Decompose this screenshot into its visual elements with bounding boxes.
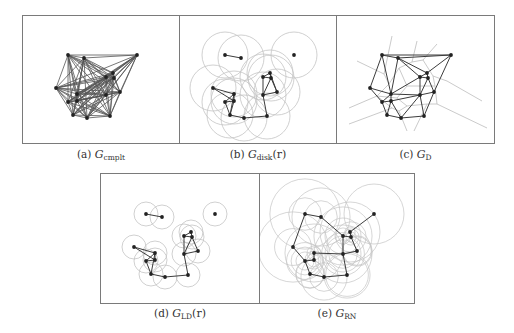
graph-node bbox=[196, 249, 200, 253]
graph-node bbox=[303, 212, 307, 216]
graph-node bbox=[449, 53, 453, 57]
graph-edge bbox=[420, 95, 424, 116]
voronoi-edge bbox=[437, 104, 487, 128]
graph-edge bbox=[434, 55, 451, 92]
graph-node bbox=[190, 235, 194, 239]
voronoi-edge bbox=[447, 81, 482, 101]
graph-node bbox=[213, 212, 217, 216]
caption-d: (d) GLD(r) bbox=[100, 307, 260, 321]
graph-edge bbox=[350, 214, 374, 232]
graph-node bbox=[118, 90, 122, 94]
panel-disk-graph bbox=[179, 15, 337, 144]
graph-edge bbox=[420, 92, 434, 95]
graph-edge bbox=[391, 58, 398, 94]
graph-node bbox=[149, 272, 153, 276]
caption-symbol: Gcmplt bbox=[95, 148, 125, 161]
caption-b: (b) Gdisk(r) bbox=[179, 148, 337, 162]
nodes-layer bbox=[132, 212, 217, 279]
graph-node bbox=[160, 215, 164, 219]
caption-label: (a) bbox=[77, 148, 91, 160]
graph-node bbox=[85, 116, 89, 120]
delaunay-graph-plot bbox=[337, 16, 494, 143]
graph-edge bbox=[87, 116, 110, 118]
graph-node bbox=[345, 273, 349, 277]
graph-node bbox=[223, 100, 227, 104]
caption-symbol: GRN bbox=[335, 307, 356, 320]
graph-node bbox=[418, 75, 422, 79]
graph-edge bbox=[387, 101, 391, 115]
graph-node bbox=[303, 259, 307, 263]
caption-label: (b) bbox=[230, 148, 245, 160]
graph-node bbox=[348, 230, 352, 234]
graph-node bbox=[265, 114, 269, 118]
voronoi-edge bbox=[412, 60, 423, 62]
graph-node bbox=[54, 86, 58, 90]
graph-node bbox=[368, 86, 372, 90]
graph-node bbox=[232, 92, 236, 96]
graph-node bbox=[312, 251, 316, 255]
graph-node bbox=[211, 86, 215, 90]
graph-node bbox=[261, 93, 265, 97]
graph-node bbox=[189, 230, 193, 234]
graph-node bbox=[82, 56, 86, 60]
relative-neighborhood-plot bbox=[260, 174, 414, 303]
graph-edge bbox=[370, 55, 382, 88]
graph-node bbox=[144, 212, 148, 216]
graph-edge bbox=[305, 214, 321, 217]
graph-node bbox=[153, 251, 157, 255]
graph-node bbox=[425, 71, 429, 75]
graph-node bbox=[380, 53, 384, 57]
voronoi-edge bbox=[412, 41, 417, 62]
graph-node bbox=[66, 53, 70, 57]
graph-node bbox=[389, 92, 393, 96]
caption-a: (a) Gcmplt bbox=[22, 148, 180, 162]
graph-edge bbox=[391, 77, 420, 94]
graph-node bbox=[399, 116, 403, 120]
caption-label: (e) bbox=[318, 307, 332, 319]
graph-node bbox=[269, 76, 273, 80]
circles-layer bbox=[260, 179, 404, 300]
graph-edge bbox=[391, 94, 420, 95]
graph-edge bbox=[387, 115, 401, 118]
graph-node bbox=[75, 99, 79, 103]
graph-edge bbox=[324, 275, 347, 277]
graph-node bbox=[396, 56, 400, 60]
edges-layer bbox=[134, 214, 198, 277]
graph-node bbox=[239, 56, 243, 60]
graph-node bbox=[112, 76, 116, 80]
graph-node bbox=[261, 75, 265, 79]
voronoi-edge bbox=[349, 96, 377, 108]
graph-node bbox=[355, 249, 359, 253]
graph-node bbox=[104, 93, 108, 97]
graph-node bbox=[341, 234, 345, 238]
caption-label: (c) bbox=[399, 148, 413, 160]
graph-node bbox=[135, 53, 139, 57]
panel-complete-graph bbox=[22, 15, 180, 144]
panel-delaunay-graph bbox=[336, 15, 495, 144]
voronoi-edge bbox=[407, 104, 427, 106]
graph-edge bbox=[351, 237, 357, 251]
graph-node bbox=[432, 90, 436, 94]
graph-node bbox=[132, 245, 136, 249]
circles-layer bbox=[190, 32, 317, 141]
graph-node bbox=[385, 113, 389, 117]
graph-node bbox=[111, 71, 115, 75]
panel-relative-neighborhood-graph bbox=[259, 173, 415, 304]
voronoi-edge bbox=[357, 61, 384, 74]
graph-node bbox=[422, 114, 426, 118]
graph-node bbox=[341, 252, 345, 256]
graph-node bbox=[232, 99, 236, 103]
graph-node bbox=[182, 252, 186, 256]
voronoi-edge bbox=[433, 76, 435, 86]
caption-symbol: GD bbox=[417, 148, 432, 161]
graph-edge bbox=[225, 55, 241, 58]
graph-node bbox=[242, 116, 246, 120]
graph-edge bbox=[263, 78, 271, 95]
graph-node bbox=[372, 212, 376, 216]
graph-node bbox=[75, 92, 79, 96]
graph-node bbox=[291, 245, 295, 249]
graph-node bbox=[108, 114, 112, 118]
graph-node bbox=[223, 53, 227, 57]
graph-edge bbox=[146, 214, 162, 217]
voronoi-edge bbox=[399, 68, 407, 86]
